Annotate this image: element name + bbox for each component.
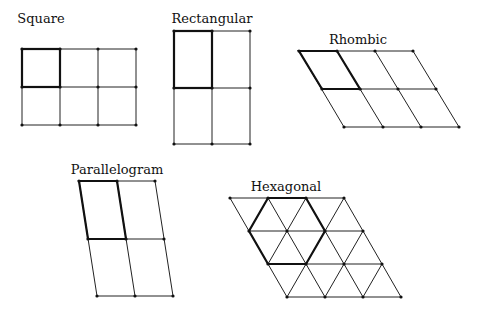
- lattice-drawings: [0, 0, 484, 322]
- square-lattice: [22, 49, 136, 125]
- hexagonal-lattice: [230, 198, 401, 297]
- lattice-diagram: Square Rectangular Rhombic Parallelogram…: [0, 0, 484, 322]
